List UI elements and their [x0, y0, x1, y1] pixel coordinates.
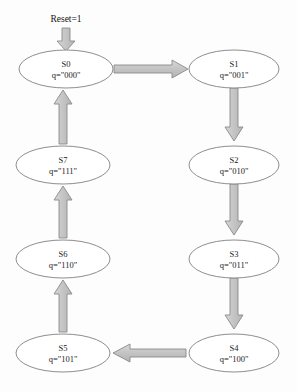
state-value-s5: q="101"	[49, 354, 78, 364]
transition-s5-s6	[54, 280, 72, 332]
transition-s7-s0	[54, 90, 72, 144]
state-value-s1: q="001"	[220, 70, 249, 80]
transition-s1-s2	[225, 88, 243, 141]
state-node-s4[interactable]: S4 q="100"	[189, 334, 279, 372]
state-value-s0: q="000"	[52, 70, 81, 80]
state-name-s2: S2	[230, 155, 239, 165]
transition-s6-s7	[54, 186, 72, 238]
state-name-s1: S1	[230, 59, 239, 69]
state-node-s6[interactable]: S6 q="110"	[16, 240, 110, 278]
reset-label: Reset=1	[50, 14, 81, 24]
state-node-s3[interactable]: S3 q="011"	[189, 240, 279, 278]
transition-s2-s3	[225, 184, 243, 235]
state-node-s5[interactable]: S5 q="101"	[16, 334, 110, 372]
state-node-s7[interactable]: S7 q="111"	[16, 146, 110, 184]
reset-arrow	[57, 28, 75, 51]
state-name-s5: S5	[59, 343, 68, 353]
state-value-s2: q="010"	[220, 166, 249, 176]
state-node-s2[interactable]: S2 q="010"	[189, 146, 279, 184]
state-value-s7: q="111"	[49, 166, 77, 176]
state-diagram-canvas: S0 q="000" S1 q="001" S2 q="010" S3 q="0…	[0, 0, 297, 392]
transition-s3-s4	[225, 278, 243, 329]
state-name-s0: S0	[62, 59, 71, 69]
state-node-s1[interactable]: S1 q="001"	[189, 50, 279, 88]
state-name-s6: S6	[59, 249, 68, 259]
state-value-s3: q="011"	[220, 260, 248, 270]
transition-s0-s1	[114, 60, 188, 78]
state-node-s0[interactable]: S0 q="000"	[19, 50, 113, 88]
state-name-s4: S4	[230, 343, 240, 353]
transition-s4-s5	[113, 344, 186, 362]
state-value-s4: q="100"	[220, 354, 249, 364]
state-name-s3: S3	[230, 249, 239, 259]
state-diagram: S0 q="000" S1 q="001" S2 q="010" S3 q="0…	[0, 0, 297, 392]
state-name-s7: S7	[59, 155, 68, 165]
state-value-s6: q="110"	[49, 260, 77, 270]
